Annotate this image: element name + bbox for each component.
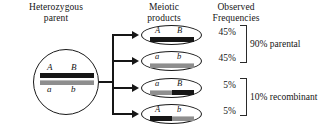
parent-top-allele-labels: A B — [40, 63, 94, 73]
arrow-icon-2 — [132, 57, 139, 65]
arrow-icon-1 — [132, 31, 139, 39]
meiosis-recombination-diagram: Heterozygous parent Meiotic products Obs… — [0, 0, 330, 131]
arrow-icon-4 — [132, 110, 139, 118]
product-2-allele-right: b — [177, 52, 181, 61]
parent-allele-B: B — [71, 62, 77, 72]
product-2-chromatid — [150, 63, 194, 68]
arrow-icon-3 — [132, 84, 139, 92]
branch-line-3 — [112, 87, 133, 89]
branch-line-1 — [112, 34, 133, 36]
product-2-allele-labels: a b — [142, 52, 201, 61]
frequencies-column-heading: Observed Frequencies — [198, 2, 274, 23]
parental-bracket — [240, 25, 247, 63]
parent-bottom-allele-labels: a b — [40, 85, 94, 95]
product-2-segment-left — [150, 63, 172, 68]
frequency-value-3: 5% — [206, 80, 236, 90]
meiotic-product-4: A b — [141, 104, 202, 124]
products-column-heading: Meiotic products — [128, 2, 200, 23]
frequency-value-1: 45% — [206, 27, 236, 37]
product-4-allele-labels: A b — [142, 105, 201, 114]
product-4-segment-right — [172, 116, 194, 121]
product-3-allele-right: B — [177, 79, 182, 88]
recombinant-bracket — [240, 78, 247, 116]
product-1-segment-right — [172, 37, 194, 42]
parental-group-label: 90% parental — [250, 39, 300, 49]
parent-column-heading: Heterozygous parent — [4, 2, 108, 23]
heterozygous-parent-cell: A B a b — [33, 49, 99, 115]
parent-allele-A: A — [47, 62, 53, 72]
product-3-segment-left — [150, 90, 172, 95]
product-4-chromatid — [150, 116, 194, 121]
product-1-allele-right: B — [177, 26, 182, 35]
frequency-value-4: 5% — [206, 106, 236, 116]
meiotic-product-1: A B — [141, 25, 202, 45]
product-2-segment-right — [172, 63, 194, 68]
branch-line-4 — [112, 113, 133, 115]
product-4-allele-right: b — [177, 105, 181, 114]
meiotic-product-3: a B — [141, 78, 202, 98]
product-3-allele-labels: a B — [142, 79, 201, 88]
product-1-segment-left — [150, 37, 172, 42]
parent-allele-b: b — [71, 84, 76, 94]
product-3-segment-right — [172, 90, 194, 95]
product-4-segment-left — [150, 116, 172, 121]
product-3-allele-left: a — [155, 79, 159, 88]
parent-allele-a: a — [47, 84, 52, 94]
product-1-allele-left: A — [155, 26, 160, 35]
meiotic-product-2: a b — [141, 51, 202, 71]
product-2-allele-left: a — [155, 52, 159, 61]
recombinant-group-label: 10% recombinant — [250, 92, 317, 102]
product-1-chromatid — [150, 37, 194, 42]
branch-spine — [112, 34, 114, 114]
product-4-allele-left: A — [155, 105, 160, 114]
frequency-value-2: 45% — [206, 53, 236, 63]
parent-stem-connector — [99, 81, 113, 83]
product-3-chromatid — [150, 90, 194, 95]
product-1-allele-labels: A B — [142, 26, 201, 35]
branch-line-2 — [112, 60, 133, 62]
parent-chromosome-group: A B a b — [40, 63, 94, 95]
